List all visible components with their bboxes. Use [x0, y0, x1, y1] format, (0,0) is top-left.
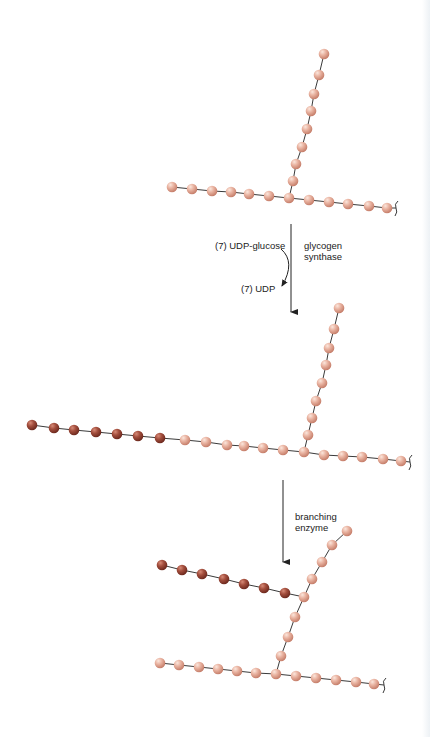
glucose-residue: [324, 343, 335, 354]
glucose-residue: [299, 592, 310, 603]
glucose-residue: [311, 673, 322, 684]
glucose-residue: [299, 447, 310, 458]
glucose-residue: [222, 440, 233, 451]
glucose-residue: [329, 324, 340, 335]
glucose-residue: [351, 677, 362, 688]
glucose-residue: [321, 360, 332, 371]
new-glucose-residue: [112, 429, 123, 440]
new-glucose-residue: [91, 427, 102, 438]
glucose-residue: [276, 651, 287, 662]
new-glucose-residue: [177, 565, 188, 576]
new-glucose-residue: [157, 560, 168, 571]
new-glucose-residue: [69, 425, 80, 436]
glucose-residue: [264, 191, 275, 202]
glucose-residue: [327, 540, 338, 551]
glucose-residue: [194, 662, 205, 673]
glucose-residue: [201, 437, 212, 448]
glycogen-diagram: [0, 0, 430, 737]
glucose-residue: [343, 199, 354, 210]
glucose-residue: [297, 142, 308, 153]
glucose-residue: [319, 450, 330, 461]
glucose-residue: [207, 186, 218, 197]
udp-label: (7) UDP: [241, 283, 275, 294]
glucose-residue: [309, 89, 320, 100]
glucose-residue: [251, 668, 262, 679]
glucose-residue: [271, 669, 282, 680]
glucose-residue: [278, 445, 289, 456]
glucose-residue: [283, 632, 294, 643]
glucose-residue: [378, 454, 389, 465]
glucose-residue: [364, 201, 375, 212]
glucose-residue: [311, 396, 322, 407]
bond-line: [276, 531, 347, 674]
glucose-residue: [319, 49, 330, 60]
glucose-residue: [304, 195, 315, 206]
glucose-residue: [167, 182, 178, 193]
glucose-residue: [232, 666, 243, 677]
glucose-residue: [302, 124, 313, 135]
glucose-residue: [284, 193, 295, 204]
new-glucose-residue: [27, 420, 38, 431]
glucose-residue: [369, 679, 380, 690]
udp-glucose-label: (7) UDP-glucose: [215, 240, 285, 251]
glucose-residue: [244, 189, 255, 200]
new-glucose-residue: [155, 433, 166, 444]
glucose-residue: [291, 159, 302, 170]
glucose-residue: [342, 526, 353, 537]
glucose-residue: [258, 443, 269, 454]
glucose-residue: [317, 557, 328, 568]
glucose-residue: [180, 435, 191, 446]
glucose-residue: [324, 197, 335, 208]
new-glucose-residue: [280, 588, 291, 599]
chain-continues-bracket-icon: [383, 678, 386, 693]
glucose-residue: [174, 660, 185, 671]
glucose-residue: [290, 612, 301, 623]
glucose-residues: [27, 49, 407, 690]
glucose-residue: [314, 70, 325, 81]
glucose-residue: [226, 187, 237, 198]
page-edge-shadow: [422, 0, 430, 737]
new-glucose-residue: [259, 583, 270, 594]
glucose-residue: [334, 303, 345, 314]
glucose-residue: [307, 413, 318, 424]
glucose-residue: [187, 184, 198, 195]
glucose-residue: [331, 675, 342, 686]
glucose-residue: [396, 456, 407, 467]
new-glucose-residue: [219, 574, 230, 585]
glycogen-synthase-label-line2: synthase: [304, 251, 342, 262]
step1-reaction-arrow: [281, 224, 291, 312]
new-glucose-residue: [239, 579, 250, 590]
glucose-residue: [303, 430, 314, 441]
glycogen-synthase-label-line1: glycogen: [304, 240, 342, 251]
glucose-residue: [382, 203, 393, 214]
glucose-residue: [338, 451, 349, 462]
glucose-residue: [306, 106, 317, 117]
glucose-residue: [288, 176, 299, 187]
branching-enzyme-label-line1: branching: [295, 511, 337, 522]
glucose-residue: [239, 441, 250, 452]
new-glucose-residue: [197, 569, 208, 580]
glucose-residue: [291, 671, 302, 682]
new-glucose-residue: [133, 431, 144, 442]
glycosidic-bonds: [32, 54, 412, 693]
glucose-residue: [317, 378, 328, 389]
chain-continues-bracket-icon: [409, 455, 412, 470]
glucose-residue: [307, 574, 318, 585]
branching-enzyme-label-line2: enzyme: [295, 522, 328, 533]
new-glucose-residue: [49, 423, 60, 434]
glucose-residue: [357, 452, 368, 463]
curved-arrow-icon: [281, 249, 289, 286]
glucose-residue: [155, 658, 166, 669]
bond-line: [32, 425, 410, 462]
glucose-residue: [213, 664, 224, 675]
